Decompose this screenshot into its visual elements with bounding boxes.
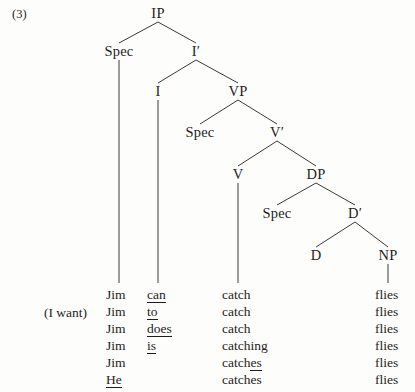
tree-node-i: I bbox=[155, 84, 160, 99]
row-1-verb: catch bbox=[222, 288, 250, 302]
row-5-subject: Jim bbox=[106, 356, 126, 370]
tree-node-specip: Spec bbox=[105, 44, 134, 59]
row-3-verb: catch bbox=[222, 322, 250, 336]
tree-node-np: NP bbox=[379, 248, 398, 263]
tree-node-specdp: Spec bbox=[263, 206, 292, 221]
branch-vp-to-vbar bbox=[238, 100, 277, 124]
row-6-subject-text: He bbox=[106, 372, 122, 388]
row-5-verb: catches bbox=[222, 356, 262, 370]
tree-node-d: D bbox=[311, 248, 322, 263]
row-2-inflection: to bbox=[147, 305, 158, 319]
row-4-inflection-text: is bbox=[147, 338, 156, 354]
row-1-object: flies bbox=[375, 288, 398, 302]
row-6-verb: catches bbox=[222, 373, 262, 387]
row-2-verb: catch bbox=[222, 305, 250, 319]
branch-ibar-to-vp bbox=[196, 60, 238, 83]
row-1-subject: Jim bbox=[106, 288, 126, 302]
row-4-object: flies bbox=[375, 339, 398, 353]
tree-node-v: V bbox=[233, 167, 244, 182]
tree-node-specvp: Spec bbox=[186, 125, 215, 140]
row-5-object: flies bbox=[375, 356, 398, 370]
tree-node-dp: DP bbox=[307, 167, 326, 182]
branch-vbar-to-dp bbox=[277, 141, 316, 166]
gloss-i-want: (I want) bbox=[44, 305, 87, 321]
row-5-verb-affix: es bbox=[250, 355, 261, 371]
row-2-object: flies bbox=[375, 305, 398, 319]
row-3-subject: Jim bbox=[106, 322, 126, 336]
row-5-verb-text: catches bbox=[222, 356, 262, 370]
branch-ip-to-ibar bbox=[158, 22, 196, 43]
tree-branch-lines bbox=[0, 0, 415, 392]
row-1-inflection: can bbox=[147, 288, 166, 302]
row-4-verb: catching bbox=[222, 339, 268, 353]
row-1-inflection-text: can bbox=[147, 287, 166, 303]
row-6-subject: He bbox=[106, 373, 122, 387]
branch-dbar-to-np bbox=[355, 222, 388, 247]
tree-node-vp: VP bbox=[229, 84, 248, 99]
tree-node-ip: IP bbox=[151, 6, 164, 21]
row-2-subject: Jim bbox=[106, 305, 126, 319]
syntax-tree-figure: (3) IPSpecI′IVPSpecV′VDPSpecD′DNP (I wan… bbox=[0, 0, 415, 392]
row-6-object: flies bbox=[375, 373, 398, 387]
row-3-inflection: does bbox=[147, 322, 172, 336]
branch-dp-to-dbar bbox=[316, 183, 355, 205]
row-3-object: flies bbox=[375, 322, 398, 336]
branch-vbar-to-v bbox=[238, 141, 277, 166]
branch-vp-to-specvp bbox=[200, 100, 238, 124]
branch-dbar-to-d bbox=[316, 222, 355, 247]
tree-node-ibar: I′ bbox=[192, 44, 200, 59]
branch-ibar-to-i bbox=[158, 60, 196, 83]
row-3-inflection-text: does bbox=[147, 321, 172, 337]
branch-ip-to-specip bbox=[119, 22, 158, 43]
tree-node-vbar: V′ bbox=[270, 125, 284, 140]
row-4-subject: Jim bbox=[106, 339, 126, 353]
row-2-inflection-text: to bbox=[147, 304, 158, 320]
branch-dp-to-specdp bbox=[277, 183, 316, 205]
row-4-inflection: is bbox=[147, 339, 156, 353]
tree-node-dbar: D′ bbox=[348, 206, 362, 221]
